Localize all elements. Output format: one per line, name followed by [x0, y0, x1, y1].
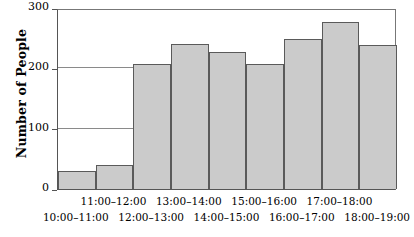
bar: [322, 22, 360, 189]
bar: [133, 64, 171, 189]
y-axis-tick-label: 200: [28, 61, 49, 72]
y-axis-tick-label: 0: [42, 182, 49, 193]
x-axis-label: 10:00–11:00: [39, 212, 113, 223]
y-axis-tick-label: 100: [28, 122, 49, 133]
bar-group: [58, 10, 395, 189]
bar: [359, 45, 397, 189]
bar: [171, 44, 209, 189]
plot-area: [57, 9, 396, 190]
x-axis-label: 15:00–16:00: [227, 196, 301, 207]
x-axis-label: 11:00–12:00: [77, 196, 151, 207]
bar: [58, 171, 96, 189]
x-axis-label: 16:00–17:00: [265, 212, 339, 223]
y-axis-title: Number of People: [14, 19, 29, 169]
x-axis-label: 14:00–15:00: [190, 212, 264, 223]
bar: [209, 52, 247, 189]
x-axis-label: 12:00–13:00: [114, 212, 188, 223]
y-axis-tick-label: 300: [28, 1, 49, 12]
bar: [284, 39, 322, 189]
x-axis-label: 18:00–19:00: [340, 212, 414, 223]
bar: [246, 64, 284, 189]
x-axis-label: 13:00–14:00: [152, 196, 226, 207]
bar: [96, 165, 134, 189]
x-axis-label: 17:00–18:00: [303, 196, 377, 207]
